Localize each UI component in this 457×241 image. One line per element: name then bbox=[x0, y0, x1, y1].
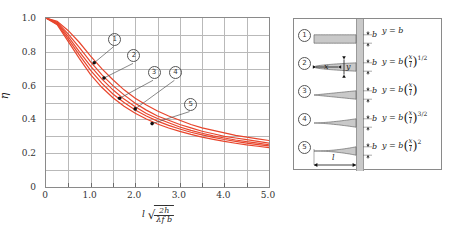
legend-row-index: 4 bbox=[298, 113, 311, 126]
leader-endpoint-marker bbox=[92, 61, 96, 65]
thickness-label-b: b bbox=[372, 86, 377, 95]
x-axis-title-numerator: 2h̄ bbox=[154, 207, 174, 215]
curve-label-number: 4 bbox=[169, 66, 182, 79]
figure-fin-efficiency: η 00.20.40.60.81.0 12345 01.02.03.04.05.… bbox=[0, 0, 457, 241]
x-tick-mark bbox=[158, 183, 159, 187]
x-tick-mark bbox=[113, 183, 114, 187]
chart-panel: η 00.20.40.60.81.0 12345 01.02.03.04.05.… bbox=[0, 0, 285, 241]
legend-row-index: 2 bbox=[298, 57, 311, 70]
leader-endpoint-marker bbox=[118, 97, 122, 101]
x-tick-mark bbox=[68, 183, 69, 187]
profile-equation: y = b(xl)2 bbox=[382, 138, 421, 154]
legend-row-parabolic: 5by = b(xl)2 bbox=[294, 133, 443, 161]
legend-row-power-half: 2by = b(xl)1/2 bbox=[294, 49, 443, 77]
profile-equation: y = b bbox=[382, 26, 403, 35]
callout-leader-lines bbox=[46, 18, 269, 187]
legend-row-index: 1 bbox=[298, 29, 311, 42]
profile-equation: y = b(xl)3/2 bbox=[382, 110, 427, 126]
leader-line bbox=[94, 47, 114, 63]
fin-profile-legend-panel: 1by = b2by = b(xl)1/23by = b(xl)4by = b(… bbox=[293, 18, 442, 170]
thickness-label-b: b bbox=[372, 114, 377, 123]
x-tick-mark bbox=[91, 183, 92, 187]
y-tick-label: 0.4 bbox=[22, 114, 36, 124]
length-label-l: l bbox=[332, 153, 335, 162]
x-tick-label: 1.0 bbox=[82, 190, 96, 200]
x-tick-mark bbox=[180, 183, 181, 187]
x-tick-label: 5.0 bbox=[261, 190, 275, 200]
curve-label-4: 4 bbox=[169, 66, 182, 79]
curve-label-number: 5 bbox=[184, 98, 197, 111]
y-tick-label: 0.6 bbox=[22, 81, 36, 91]
y-tick-label: 0.2 bbox=[22, 148, 36, 158]
legend-row-index: 5 bbox=[298, 141, 311, 154]
curve-label-3: 3 bbox=[148, 66, 161, 79]
curve-label-2: 2 bbox=[127, 49, 140, 62]
legend-row-rectangular: 1by = b bbox=[294, 21, 443, 49]
x-tick-label: 0 bbox=[42, 190, 48, 200]
leader-line bbox=[135, 80, 174, 109]
x-tick-label: 4.0 bbox=[216, 190, 230, 200]
curve-label-number: 1 bbox=[108, 33, 121, 46]
sqrt-icon: √2h̄λf b bbox=[148, 205, 174, 225]
y-tick-labels: 00.20.40.60.81.0 bbox=[0, 17, 41, 188]
x-tick-mark bbox=[247, 183, 248, 187]
thickness-label-b: b bbox=[372, 30, 377, 39]
x-tick-label: 2.0 bbox=[127, 190, 141, 200]
legend-row-power-three-halves: 4by = b(xl)3/2 bbox=[294, 105, 443, 133]
leader-endpoint-marker bbox=[150, 122, 154, 126]
thickness-label-b: b bbox=[372, 58, 377, 67]
profile-equation: y = b(xl)1/2 bbox=[382, 54, 427, 70]
plot-area: 12345 bbox=[45, 17, 270, 188]
x-tick-label: 3.0 bbox=[172, 190, 186, 200]
leader-line bbox=[120, 80, 153, 98]
x-axis-title-denominator: λf b bbox=[154, 215, 174, 224]
y-tick-label: 1.0 bbox=[22, 13, 36, 23]
leader-line bbox=[152, 112, 190, 124]
x-axis-title: l √2h̄λf b bbox=[142, 205, 174, 225]
profile-equation: y = b(xl) bbox=[382, 82, 418, 98]
curve-label-number: 2 bbox=[127, 49, 140, 62]
curve-label-number: 3 bbox=[148, 66, 161, 79]
y-dimension-label: y bbox=[346, 62, 351, 71]
thickness-label-b: b bbox=[372, 142, 377, 151]
curve-label-5: 5 bbox=[184, 98, 197, 111]
y-tick-label: 0.8 bbox=[22, 47, 36, 57]
y-tick-label: 0 bbox=[30, 182, 36, 192]
legend-row-triangular: 3by = b(xl) bbox=[294, 77, 443, 105]
x-tick-mark bbox=[135, 183, 136, 187]
x-tick-labels: 01.02.03.04.05.0 bbox=[45, 190, 270, 204]
x-tick-mark bbox=[202, 183, 203, 187]
x-tick-mark bbox=[224, 183, 225, 187]
curve-label-1: 1 bbox=[108, 33, 121, 46]
legend-row-index: 3 bbox=[298, 85, 311, 98]
x-dimension-label: x bbox=[324, 62, 329, 71]
leader-endpoint-marker bbox=[102, 76, 106, 80]
leader-line bbox=[104, 63, 133, 78]
x-axis-title-leading: l bbox=[142, 209, 145, 219]
leader-endpoint-marker bbox=[133, 107, 137, 111]
